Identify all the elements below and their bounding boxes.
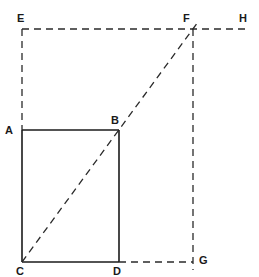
- label-a: A: [5, 124, 13, 136]
- label-g: G: [199, 254, 208, 266]
- label-f: F: [183, 12, 190, 24]
- label-b: B: [111, 114, 119, 126]
- proportion-diagram: E F H A B C D G: [0, 0, 259, 277]
- label-e: E: [17, 12, 24, 24]
- diagonal-c-f: [22, 22, 198, 262]
- label-d: D: [113, 265, 121, 277]
- label-c: C: [16, 265, 24, 277]
- label-h: H: [239, 12, 247, 24]
